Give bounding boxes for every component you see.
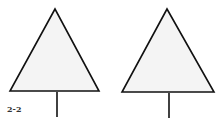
left-tree-shape	[10, 9, 99, 117]
left-triangle	[10, 9, 99, 91]
diagram-canvas	[0, 0, 224, 130]
figure-label: 2-2	[7, 104, 21, 114]
right-triangle	[122, 9, 214, 92]
right-tree-shape	[122, 9, 214, 118]
